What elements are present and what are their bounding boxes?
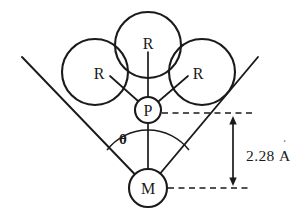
cone-line-left	[22, 57, 148, 188]
distance-unit-label: A	[279, 147, 291, 164]
distance-arrow-head-up	[229, 116, 236, 125]
metal-label: M	[141, 180, 155, 197]
distance-label-group: 2.28 A ˚	[246, 139, 291, 164]
theta-angle-label: θ	[119, 131, 127, 147]
distance-value-label: 2.28	[246, 147, 275, 164]
molecule-geometry-figure: P M R R R θ 2.28 A ˚	[0, 0, 299, 213]
diagram-root: P M R R R θ 2.28 A ˚	[0, 0, 299, 213]
phosphorus-label: P	[144, 102, 153, 119]
bond-p-to-r-left	[110, 76, 138, 101]
angstrom-ring-icon: ˚	[283, 139, 286, 148]
distance-arrow-group	[229, 116, 236, 186]
dimension-guides-group	[162, 113, 252, 188]
substituent-label-left: R	[94, 65, 105, 82]
distance-arrow-head-down	[229, 178, 236, 187]
substituent-label-top: R	[143, 35, 154, 52]
substituent-label-right: R	[193, 65, 204, 82]
bond-p-to-r-right	[159, 76, 188, 101]
